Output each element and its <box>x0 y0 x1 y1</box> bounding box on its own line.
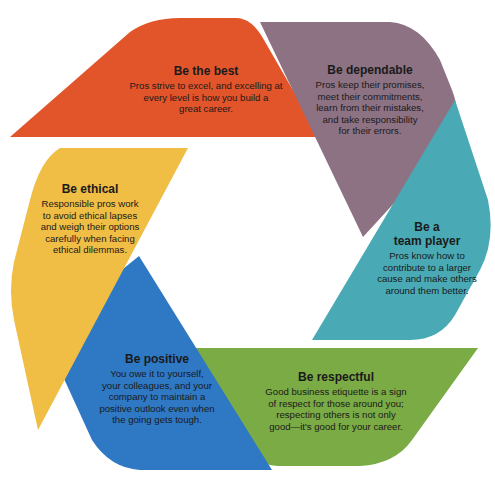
segment-title: Be respectful <box>246 370 426 384</box>
segment-title: Be positive <box>92 352 222 366</box>
segment-be-a-team-player: Be a team player Pros know how to contri… <box>364 220 490 296</box>
segment-body-line: carefully when facing <box>30 233 150 245</box>
segment-body-line: Pros strive to excel, and excelling at <box>118 80 294 92</box>
segment-be-dependable: Be dependable Pros keep their promises, … <box>300 63 440 137</box>
segment-body-line: and weigh their options <box>30 221 150 233</box>
segment-title: Be the best <box>118 64 294 78</box>
segment-body-line: company to maintain a <box>92 391 222 403</box>
segment-title: Be ethical <box>30 182 150 196</box>
segment-body-line: Responsible pros work <box>30 198 150 210</box>
segment-body-line: meet their commitments, <box>300 91 440 103</box>
segment-body-line: great career. <box>118 103 294 115</box>
segment-body-line: and take responsibility <box>300 114 440 126</box>
segment-body-line: your colleagues, and your <box>92 380 222 392</box>
segment-body-line: every level is how you build a <box>118 92 294 104</box>
segment-be-the-best: Be the best Pros strive to excel, and ex… <box>118 64 294 115</box>
segment-body-line: to avoid ethical lapses <box>30 210 150 222</box>
segment-body-line: contribute to a larger <box>364 262 490 274</box>
segment-body-line: ethical dilemmas. <box>30 244 150 256</box>
segment-body-line: learn from their mistakes, <box>300 102 440 114</box>
segment-body-line: for their errors. <box>300 125 440 137</box>
segment-body-line: Pros keep their promises, <box>300 79 440 91</box>
segment-title-line: team player <box>364 234 490 248</box>
segment-body-line: good—it's good for your career. <box>246 421 426 433</box>
segment-title: Be dependable <box>300 63 440 77</box>
segment-body-line: positive outlook even when <box>92 403 222 415</box>
segment-body-line: cause and make others <box>364 273 490 285</box>
segment-body-line: the going gets tough. <box>92 414 222 426</box>
segment-title-line: Be a <box>364 220 490 234</box>
segment-be-positive: Be positive You owe it to yourself, your… <box>92 352 222 426</box>
segment-body-line: respecting others is not only <box>246 409 426 421</box>
segment-body-line: Good business etiquette is a sign <box>246 386 426 398</box>
segment-body-line: of respect for those around you; <box>246 398 426 410</box>
segment-body-line: Pros know how to <box>364 250 490 262</box>
segment-body-line: around them better. <box>364 285 490 297</box>
segment-be-ethical: Be ethical Responsible pros work to avoi… <box>30 182 150 256</box>
segment-body-line: You owe it to yourself, <box>92 368 222 380</box>
segment-be-respectful: Be respectful Good business etiquette is… <box>246 370 426 432</box>
